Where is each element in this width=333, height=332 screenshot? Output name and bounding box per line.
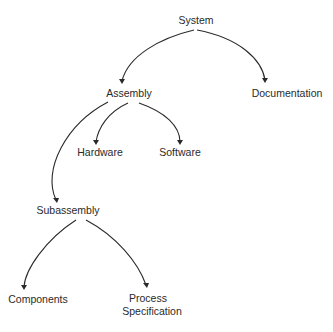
node-process-specification-line2: Specification: [122, 305, 182, 317]
arrow-head-icon: [93, 140, 99, 145]
node-process-specification-line1: Process: [129, 292, 167, 304]
arrow-head-icon: [53, 198, 59, 203]
node-software: Software: [159, 146, 201, 158]
node-assembly: Assembly: [106, 87, 152, 99]
edge-assembly-software: [139, 103, 180, 142]
edge-subassembly-process-specification: [86, 220, 146, 285]
edges: [21, 30, 268, 290]
node-components: Components: [8, 293, 68, 305]
edge-system-documentation: [197, 30, 265, 80]
arrow-head-icon: [119, 79, 125, 84]
edge-subassembly-components: [24, 220, 76, 287]
node-documentation: Documentation: [252, 87, 323, 99]
edge-system-assembly: [122, 30, 194, 81]
edge-assembly-hardware: [96, 103, 128, 142]
node-subassembly: Subassembly: [36, 204, 100, 216]
node-hardware: Hardware: [77, 146, 123, 158]
node-system: System: [178, 14, 213, 26]
hierarchy-diagram: System Assembly Documentation Hardware S…: [0, 0, 333, 332]
arrow-head-icon: [143, 283, 149, 288]
nodes: System Assembly Documentation Hardware S…: [8, 14, 322, 317]
arrow-head-icon: [177, 140, 183, 145]
arrow-head-icon: [262, 78, 268, 83]
arrow-head-icon: [21, 285, 27, 290]
